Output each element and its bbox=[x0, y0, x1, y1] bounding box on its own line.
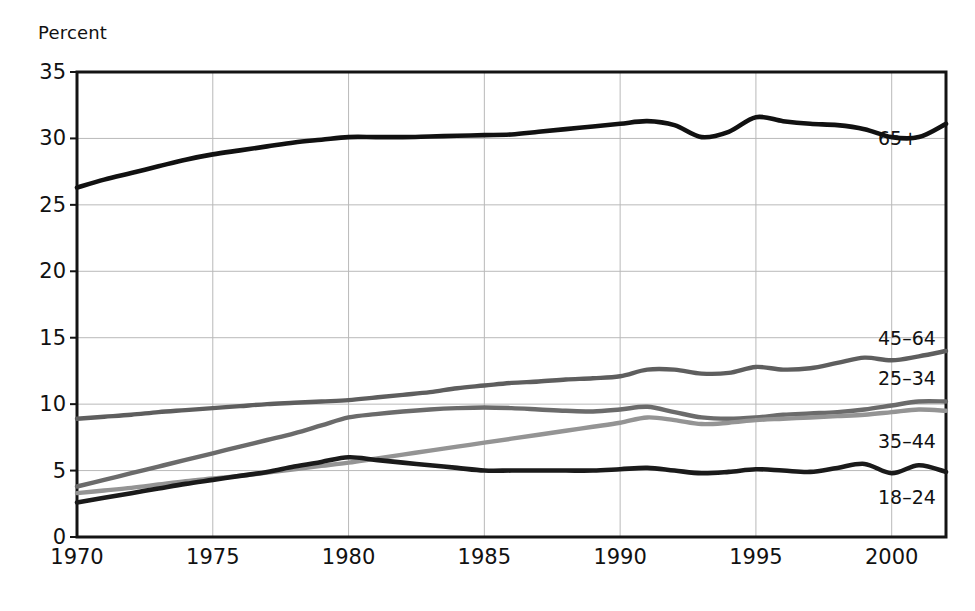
y-tick-label: 30 bbox=[39, 126, 66, 150]
x-tick-label: 1980 bbox=[322, 545, 375, 569]
gridlines bbox=[77, 72, 946, 537]
y-tick-label: 15 bbox=[39, 326, 66, 350]
x-tick-label: 1995 bbox=[729, 545, 782, 569]
series-label-18-24: 18–24 bbox=[878, 486, 936, 508]
data-series bbox=[77, 117, 946, 503]
series-line-18-24 bbox=[77, 457, 946, 502]
x-tick-label: 1970 bbox=[50, 545, 103, 569]
y-tick-label: 25 bbox=[39, 193, 66, 217]
y-tick-label: 20 bbox=[39, 259, 66, 283]
plot-area bbox=[0, 0, 975, 611]
series-label-25-34: 25–34 bbox=[878, 367, 936, 389]
y-tick-label: 10 bbox=[39, 392, 66, 416]
x-tick-label: 1975 bbox=[186, 545, 239, 569]
series-label-35-44: 35–44 bbox=[878, 430, 936, 452]
x-tick-label: 2000 bbox=[865, 545, 918, 569]
x-tick-label: 1990 bbox=[593, 545, 646, 569]
series-label-45-64: 45–64 bbox=[878, 327, 936, 349]
y-tick-label: 5 bbox=[53, 459, 66, 483]
plot-frame bbox=[77, 72, 946, 537]
y-tick-label: 35 bbox=[39, 60, 66, 84]
series-label-65-: 65+ bbox=[878, 127, 918, 149]
chart-container: Percent 05101520253035 19701975198019851… bbox=[0, 0, 975, 611]
series-line-65- bbox=[77, 117, 946, 188]
x-tick-label: 1985 bbox=[458, 545, 511, 569]
